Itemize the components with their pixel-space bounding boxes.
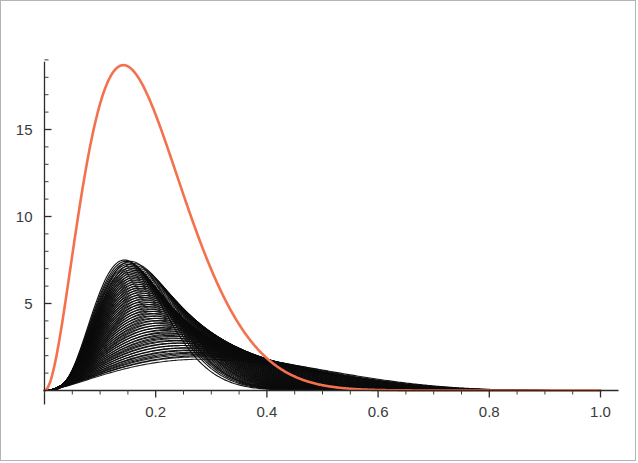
x-tick-label: 0.6 — [368, 403, 389, 420]
x-tick-label: 0.8 — [479, 403, 500, 420]
y-tick-label: 10 — [16, 208, 33, 225]
y-tick-label: 15 — [16, 121, 33, 138]
plot-canvas: 0.20.40.60.81.051015 — [1, 1, 637, 462]
figure-frame: 0.20.40.60.81.051015 — [0, 0, 636, 461]
x-tick-label: 1.0 — [590, 403, 611, 420]
density-family-group — [45, 260, 601, 391]
y-tick-label: 5 — [24, 295, 32, 312]
x-tick-label: 0.2 — [145, 403, 166, 420]
x-tick-label: 0.4 — [256, 403, 277, 420]
